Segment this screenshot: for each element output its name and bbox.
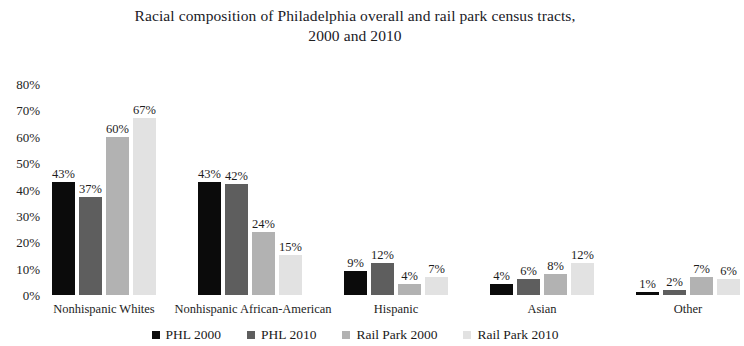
bar-value-label: 7% bbox=[428, 263, 445, 276]
bar-value-label: 4% bbox=[493, 270, 510, 283]
bar-phl-2000-other[interactable]: 1% bbox=[636, 292, 659, 295]
bar-rail-park-2010-nonhispanic-african-american[interactable]: 15% bbox=[279, 255, 302, 295]
bar-rail-park-2010-hispanic[interactable]: 7% bbox=[425, 277, 448, 295]
bar-value-label: 6% bbox=[520, 265, 537, 278]
bar-phl-2010-hispanic[interactable]: 12% bbox=[371, 263, 394, 295]
bar-phl-2010-asian[interactable]: 6% bbox=[517, 279, 540, 295]
y-axis-tick-80: 80% bbox=[0, 78, 40, 91]
bar-value-label: 7% bbox=[693, 263, 710, 276]
bar-rail-park-2000-other[interactable]: 7% bbox=[690, 277, 713, 295]
bar-group-nonhispanic-whites: 43% 37% 60% 67% bbox=[48, 84, 160, 295]
bar-rail-park-2000-nonhispanic-african-american[interactable]: 24% bbox=[252, 232, 275, 295]
chart-legend: PHL 2000 PHL 2010 Rail Park 2000 Rail Pa… bbox=[0, 327, 710, 343]
bar-value-label: 60% bbox=[106, 123, 129, 136]
legend-label: Rail Park 2000 bbox=[356, 327, 437, 343]
bar-group-hispanic: 9% 12% 4% 7% bbox=[340, 84, 452, 295]
y-axis-tick-50: 50% bbox=[0, 157, 40, 170]
bar-phl-2010-other[interactable]: 2% bbox=[663, 290, 686, 295]
plot-area: 80% 70% 60% 50% 40% 30% 20% 10% 0% 43% 3… bbox=[0, 0, 710, 310]
bar-group-other: 1% 2% 7% 6% bbox=[632, 84, 744, 295]
legend-item-rail-park-2010[interactable]: Rail Park 2010 bbox=[463, 327, 558, 343]
bar-value-label: 4% bbox=[401, 270, 418, 283]
bar-value-label: 6% bbox=[720, 265, 737, 278]
bars-region: 43% 37% 60% 67% 43% 42% 24% 15 bbox=[48, 84, 708, 295]
bar-value-label: 42% bbox=[225, 170, 248, 183]
bar-value-label: 9% bbox=[347, 257, 364, 270]
legend-item-phl-2010[interactable]: PHL 2010 bbox=[247, 327, 316, 343]
bar-phl-2010-nonhispanic-whites[interactable]: 37% bbox=[79, 197, 102, 295]
bar-value-label: 37% bbox=[79, 183, 102, 196]
y-axis-tick-30: 30% bbox=[0, 210, 40, 223]
y-axis-tick-0: 0% bbox=[0, 289, 40, 302]
bar-rail-park-2010-other[interactable]: 6% bbox=[717, 279, 740, 295]
bar-value-label: 2% bbox=[666, 276, 683, 289]
bar-value-label: 43% bbox=[52, 168, 75, 181]
legend-item-phl-2000[interactable]: PHL 2000 bbox=[152, 327, 221, 343]
y-axis-tick-70: 70% bbox=[0, 104, 40, 117]
legend-label: PHL 2000 bbox=[166, 327, 221, 343]
bar-rail-park-2000-nonhispanic-whites[interactable]: 60% bbox=[106, 137, 129, 295]
bar-value-label: 1% bbox=[639, 278, 656, 291]
y-axis-tick-10: 10% bbox=[0, 263, 40, 276]
y-axis-tick-60: 60% bbox=[0, 131, 40, 144]
bar-value-label: 12% bbox=[371, 249, 394, 262]
x-axis-label-hispanic: Hispanic bbox=[340, 302, 452, 316]
x-axis-label-other: Other bbox=[632, 302, 744, 316]
legend-swatch-icon bbox=[463, 331, 471, 339]
bar-value-label: 67% bbox=[133, 104, 156, 117]
bar-rail-park-2000-hispanic[interactable]: 4% bbox=[398, 284, 421, 295]
y-axis-tick-40: 40% bbox=[0, 184, 40, 197]
bar-phl-2000-nonhispanic-whites[interactable]: 43% bbox=[52, 182, 75, 295]
x-axis-label-nonhispanic-whites: Nonhispanic Whites bbox=[48, 302, 160, 316]
bar-value-label: 12% bbox=[571, 249, 594, 262]
bar-value-label: 43% bbox=[198, 168, 221, 181]
bar-phl-2000-hispanic[interactable]: 9% bbox=[344, 271, 367, 295]
bar-group-asian: 4% 6% 8% 12% bbox=[486, 84, 598, 295]
bar-rail-park-2010-nonhispanic-whites[interactable]: 67% bbox=[133, 118, 156, 295]
bar-rail-park-2010-asian[interactable]: 12% bbox=[571, 263, 594, 295]
bar-phl-2000-nonhispanic-african-american[interactable]: 43% bbox=[198, 182, 221, 295]
bar-rail-park-2000-asian[interactable]: 8% bbox=[544, 274, 567, 295]
bar-group-nonhispanic-african-american: 43% 42% 24% 15% bbox=[194, 84, 306, 295]
bar-phl-2000-asian[interactable]: 4% bbox=[490, 284, 513, 295]
x-axis-label-asian: Asian bbox=[486, 302, 598, 316]
bar-value-label: 24% bbox=[252, 218, 275, 231]
bar-phl-2010-nonhispanic-african-american[interactable]: 42% bbox=[225, 184, 248, 295]
y-axis-tick-20: 20% bbox=[0, 236, 40, 249]
legend-item-rail-park-2000[interactable]: Rail Park 2000 bbox=[342, 327, 437, 343]
x-axis-label-nonhispanic-african-american: Nonhispanic African-American bbox=[168, 302, 338, 316]
bar-value-label: 8% bbox=[547, 260, 564, 273]
bar-value-label: 15% bbox=[279, 241, 302, 254]
legend-swatch-icon bbox=[152, 331, 160, 339]
legend-label: Rail Park 2010 bbox=[477, 327, 558, 343]
legend-swatch-icon bbox=[342, 331, 350, 339]
legend-label: PHL 2010 bbox=[261, 327, 316, 343]
legend-swatch-icon bbox=[247, 331, 255, 339]
